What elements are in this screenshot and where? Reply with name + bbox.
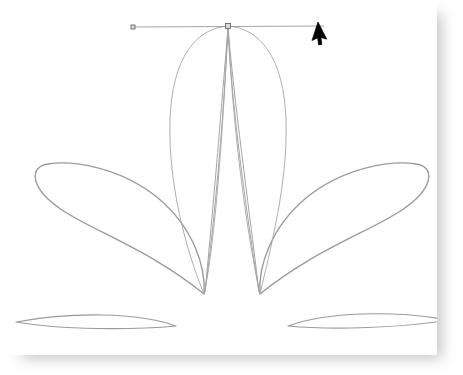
petal-inner-right[interactable] [228,28,259,292]
drawing-canvas[interactable] [0,0,437,355]
leaf-sliver-left[interactable] [16,315,176,329]
petal-outer-right[interactable] [260,163,429,294]
petal-inner-left[interactable] [205,28,228,292]
petal-outer-left[interactable] [35,163,204,294]
application-window: untitled path drawing [0,0,463,375]
petal-group[interactable] [16,26,437,329]
leaf-sliver-right[interactable] [288,314,437,328]
petal-center-outer-right[interactable] [228,26,286,294]
artwork-layer[interactable] [0,0,437,355]
